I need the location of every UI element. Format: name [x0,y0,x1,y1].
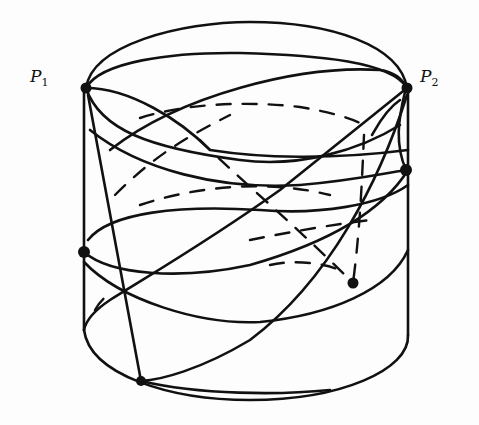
point-bottom [136,376,146,386]
label-p2: P2 [420,66,438,89]
curve-p2-to-bottom [141,95,407,381]
point-p2 [402,83,413,94]
cylinder-diagram [0,0,479,425]
top-ellipse-back [86,22,407,88]
hidden-back-lower [140,186,330,205]
point-right-mid [400,164,412,176]
label-p2-sub: 2 [431,76,438,89]
label-p1-base: P [30,66,41,86]
label-p2-base: P [420,66,431,86]
hidden-back-bottom [270,262,340,270]
label-p1-sub: 1 [41,76,48,89]
point-p1 [81,83,92,94]
point-back [348,278,359,289]
label-p1: P1 [30,66,48,89]
line-p1-to-bottom [88,95,141,381]
front-band-upper [90,130,408,186]
point-left-mid [78,246,90,258]
hidden-dotted-band [250,220,370,240]
